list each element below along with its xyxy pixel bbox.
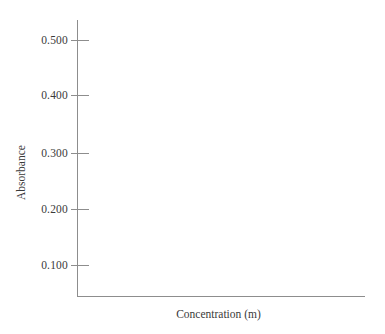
absorbance-concentration-chart: 0.500 0.400 0.300 0.200 0.100 Absorbance… xyxy=(0,0,385,334)
x-axis-line xyxy=(77,296,365,297)
y-axis-tick-0.500 xyxy=(71,40,89,41)
y-axis-tick-0.400 xyxy=(71,95,89,96)
plot-area xyxy=(78,20,365,296)
y-axis-tick-label-0.300: 0.300 xyxy=(41,148,68,160)
x-axis-title: Concentration (m) xyxy=(0,309,385,321)
y-axis-tick-label-0.200: 0.200 xyxy=(41,204,68,216)
y-axis-tick-0.100 xyxy=(71,265,89,266)
y-axis-tick-0.200 xyxy=(71,209,89,210)
y-axis-tick-label-0.100: 0.100 xyxy=(41,260,68,272)
y-axis-line xyxy=(77,20,78,297)
y-axis-title: Absorbance xyxy=(16,156,28,200)
y-axis-tick-label-0.500: 0.500 xyxy=(41,35,68,47)
y-axis-tick-0.300 xyxy=(71,153,89,154)
y-axis-tick-label-0.400: 0.400 xyxy=(41,90,68,102)
